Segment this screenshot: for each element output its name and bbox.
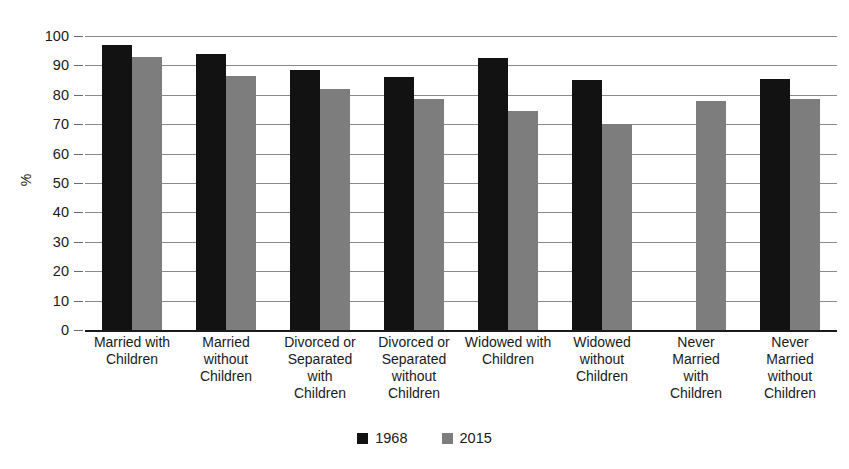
y-tick-mark <box>74 271 83 272</box>
legend-swatch-icon <box>357 433 368 444</box>
category-label: Divorced orSeparatedwithoutChildren <box>361 334 467 402</box>
y-tick-mark <box>74 242 83 243</box>
category-label-line: without <box>549 351 655 368</box>
axis-baseline <box>85 330 837 332</box>
category-label-line: Married <box>643 351 749 368</box>
category-label: NeverMarriedwithChildren <box>643 334 749 402</box>
category-label-line: Children <box>173 368 279 385</box>
y-tick-mark <box>74 154 83 155</box>
bar-group <box>461 36 555 330</box>
category-label-line: Children <box>737 385 843 402</box>
category-label-line: Separated <box>361 351 467 368</box>
category-label-line: Divorced or <box>267 334 373 351</box>
category-label-line: without <box>737 368 843 385</box>
y-tick-label: 10 <box>35 293 69 309</box>
bar-group <box>555 36 649 330</box>
legend-swatch-icon <box>442 433 453 444</box>
category-label-line: Children <box>455 351 561 368</box>
bar-1968 <box>384 77 414 330</box>
y-tick-label: 50 <box>35 175 69 191</box>
category-label-line: Widowed <box>549 334 655 351</box>
y-tick-mark <box>74 95 83 96</box>
bar-2015 <box>602 124 632 330</box>
bar-2015 <box>790 99 820 330</box>
y-tick-mark <box>74 330 83 331</box>
bar-group <box>179 36 273 330</box>
y-tick-label: 70 <box>35 116 69 132</box>
bar-2015 <box>508 111 538 330</box>
bar-chart: % 1009080706050403020100 Married withChi… <box>0 0 849 469</box>
bar-2015 <box>320 89 350 330</box>
y-tick-label: 60 <box>35 146 69 162</box>
category-label-line: Never <box>643 334 749 351</box>
y-tick-label: 30 <box>35 234 69 250</box>
category-label-line: Married with <box>79 334 185 351</box>
legend-item-2015[interactable]: 2015 <box>442 430 492 446</box>
category-label-line: Children <box>361 385 467 402</box>
category-label-line: Children <box>267 385 373 402</box>
bar-2015 <box>226 76 256 330</box>
category-label: Married withChildren <box>79 334 185 368</box>
category-label-line: without <box>361 368 467 385</box>
y-tick-label: 90 <box>35 57 69 73</box>
bar-1968 <box>196 54 226 330</box>
category-label: NeverMarriedwithoutChildren <box>737 334 843 402</box>
category-label-line: Children <box>79 351 185 368</box>
bar-1968 <box>760 79 790 330</box>
bar-group <box>649 36 743 330</box>
bar-1968 <box>478 58 508 330</box>
category-label: WidowedwithoutChildren <box>549 334 655 385</box>
y-tick-mark <box>74 124 83 125</box>
category-label: MarriedwithoutChildren <box>173 334 279 385</box>
y-tick-mark <box>74 65 83 66</box>
bar-group <box>743 36 837 330</box>
y-tick-mark <box>74 183 83 184</box>
y-tick-label: 20 <box>35 263 69 279</box>
y-tick-label: 80 <box>35 87 69 103</box>
bar-1968 <box>102 45 132 330</box>
category-label-line: Married <box>737 351 843 368</box>
y-tick-label: 40 <box>35 204 69 220</box>
chart-legend: 19682015 <box>0 430 849 446</box>
category-label-line: Widowed with <box>455 334 561 351</box>
legend-label: 2015 <box>460 430 492 446</box>
bar-2015 <box>132 57 162 330</box>
category-label: Widowed withChildren <box>455 334 561 368</box>
bars-layer <box>85 36 837 330</box>
plot-area: 1009080706050403020100 <box>85 36 837 330</box>
legend-item-1968[interactable]: 1968 <box>357 430 407 446</box>
category-label-line: Divorced or <box>361 334 467 351</box>
category-label-line: with <box>643 368 749 385</box>
category-label-line: with <box>267 368 373 385</box>
category-label-line: Never <box>737 334 843 351</box>
bar-1968 <box>290 70 320 330</box>
x-axis-category-labels: Married withChildrenMarriedwithoutChildr… <box>85 334 837 420</box>
bar-group <box>85 36 179 330</box>
category-label: Divorced orSeparatedwithChildren <box>267 334 373 402</box>
category-label-line: Children <box>643 385 749 402</box>
y-tick-label: 100 <box>35 28 69 44</box>
category-label-line: without <box>173 351 279 368</box>
bar-2015 <box>414 99 444 330</box>
category-label-line: Separated <box>267 351 373 368</box>
legend-label: 1968 <box>375 430 407 446</box>
bar-2015 <box>696 101 726 330</box>
y-tick-label: 0 <box>35 322 69 338</box>
category-label-line: Married <box>173 334 279 351</box>
y-tick-mark <box>74 212 83 213</box>
bar-1968 <box>572 80 602 330</box>
bar-group <box>273 36 367 330</box>
y-tick-mark <box>74 301 83 302</box>
bar-group <box>367 36 461 330</box>
category-label-line: Children <box>549 368 655 385</box>
y-tick-mark <box>74 36 83 37</box>
